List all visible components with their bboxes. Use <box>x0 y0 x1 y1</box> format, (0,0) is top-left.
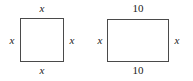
square-top-side-label: x <box>32 3 52 14</box>
rectangle-bottom-side-label: 10 <box>126 65 150 76</box>
square-right-side-label: x <box>64 35 80 46</box>
rectangle-outline <box>107 19 169 62</box>
rectangle-top-side-label: 10 <box>126 3 150 14</box>
rectangle-left-side-label: x <box>92 35 108 46</box>
geometry-figure-canvas: x x x x 10 x x 10 <box>0 0 193 81</box>
square-outline <box>20 18 64 62</box>
rectangle-right-side-label: x <box>169 35 185 46</box>
square-bottom-side-label: x <box>32 65 52 76</box>
square-left-side-label: x <box>4 35 20 46</box>
